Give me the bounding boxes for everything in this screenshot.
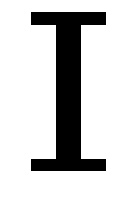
ibeam-bottom-serif bbox=[31, 159, 106, 171]
ibeam-stem bbox=[56, 24, 81, 160]
text-cursor-icon bbox=[0, 0, 117, 198]
